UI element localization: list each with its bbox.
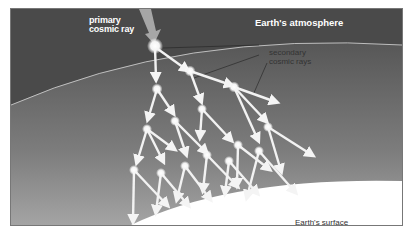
primary-cosmic-ray-label: primary cosmic ray [89,16,134,34]
atmosphere-label: Earth's atmosphere [255,17,343,28]
earth-surface-label: Earth's surface [295,218,348,226]
cascade-diagram [11,9,402,225]
primary-label-line2: cosmic ray [89,25,134,34]
diagram-frame: primary cosmic ray Earth's atmosphere se… [10,8,403,226]
secondary-cosmic-rays-label: secondary cosmic rays [269,49,311,66]
secondary-label-line2: cosmic rays [269,58,311,67]
